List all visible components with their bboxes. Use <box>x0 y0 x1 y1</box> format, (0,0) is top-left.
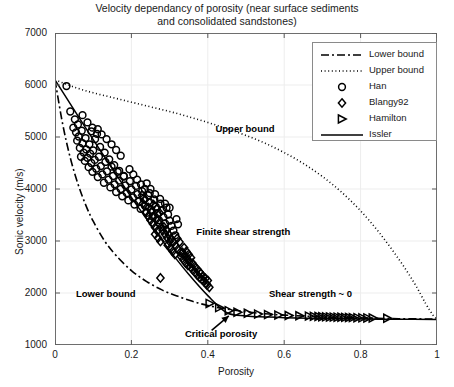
x-tick-label: 0.6 <box>264 349 304 360</box>
legend-symbol-dashdot-line <box>319 47 365 63</box>
x-tick-label: 0 <box>35 349 75 360</box>
legend-label: Issler <box>369 128 392 139</box>
annotation-lower-bound: Lower bound <box>76 288 136 299</box>
legend-symbol-solid-line <box>319 127 365 143</box>
annotation-finite-shear-strength: Finite shear strength <box>196 226 290 237</box>
legend-item-issler[interactable]: Issler <box>313 127 438 143</box>
x-axis-label: Porosity <box>218 366 254 377</box>
series-hamilton <box>206 299 391 322</box>
legend-item-han[interactable]: Han <box>313 79 438 95</box>
figure-container: Velocity dependancy of porosity (near su… <box>0 0 454 387</box>
annotation-critical-porosity: Critical porosity <box>185 328 257 339</box>
y-axis-label: Sonic velocity (m/s) <box>14 168 25 255</box>
legend-label: Hamilton <box>369 112 407 123</box>
y-tick-label: 3000 <box>5 235 47 246</box>
legend-label: Upper bound <box>369 64 424 75</box>
chart-title-line2: and consolidated sandstones) <box>0 15 454 28</box>
y-tick-label: 2000 <box>5 287 47 298</box>
legend-symbol-dotted-line <box>319 63 365 79</box>
legend-label: Lower bound <box>369 48 424 59</box>
y-tick-label: 7000 <box>5 27 47 38</box>
annotation-shear-strength-0: Shear strength ~ 0 <box>269 288 352 299</box>
x-tick-label: 0.8 <box>341 349 381 360</box>
series-han <box>63 83 181 239</box>
x-tick-label: 0.2 <box>111 349 151 360</box>
legend-item-lower-bound[interactable]: Lower bound <box>313 47 438 63</box>
chart-title: Velocity dependancy of porosity (near su… <box>0 2 454 28</box>
y-tick-label: 4000 <box>5 183 47 194</box>
x-tick-label: 0.4 <box>188 349 228 360</box>
legend-symbol-circle-marker <box>319 79 365 95</box>
legend-symbol-triangle-right-marker <box>319 111 365 127</box>
y-tick-label: 6000 <box>5 79 47 90</box>
chart-title-line1: Velocity dependancy of porosity (near su… <box>0 2 454 15</box>
legend-label: Han <box>369 80 386 91</box>
y-tick-label: 5000 <box>5 131 47 142</box>
x-tick-label: 1 <box>417 349 454 360</box>
legend-item-blangy92[interactable]: Blangy92 <box>313 95 438 111</box>
legend-symbol-diamond-marker <box>319 95 365 111</box>
legend-item-hamilton[interactable]: Hamilton <box>313 111 438 127</box>
annotation-upper-bound: Upper bound <box>215 123 274 134</box>
chart-legend[interactable]: Lower boundUpper boundHanBlangy92Hamilto… <box>312 42 437 141</box>
legend-item-upper-bound[interactable]: Upper bound <box>313 63 438 79</box>
legend-label: Blangy92 <box>369 96 409 107</box>
